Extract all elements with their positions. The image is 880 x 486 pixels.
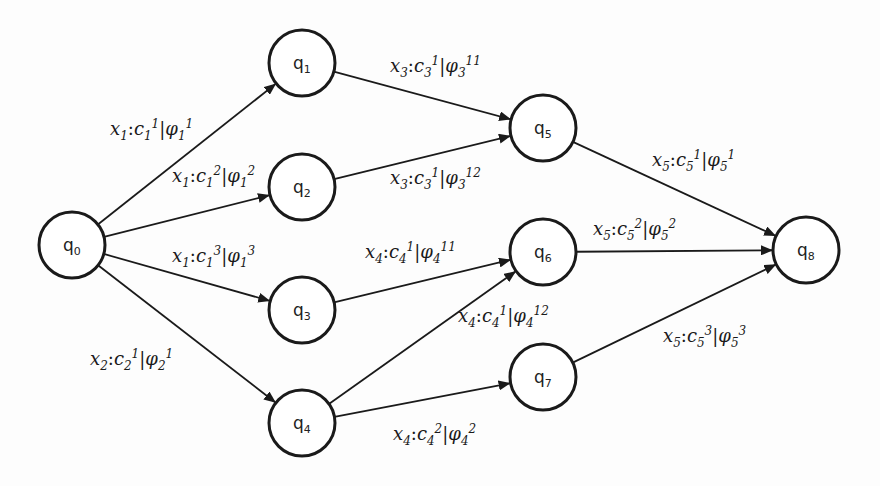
edge-label-q6-q8: x5:c52|φ52 <box>593 217 676 243</box>
state-graph: q0q1q2q3q4q5q6q7q8 x1:c11|φ11x1:c12|φ12x… <box>0 0 880 486</box>
edge-label-q4-q7: x4:c42|φ42 <box>393 422 476 448</box>
edge-q0-q4 <box>98 265 275 402</box>
edge-label-q0-q4: x2:c21|φ21 <box>90 347 173 373</box>
node-q1[interactable]: q1 <box>269 30 335 96</box>
diagram-canvas: q0q1q2q3q4q5q6q7q8 x1:c11|φ11x1:c12|φ12x… <box>0 0 880 486</box>
edge-label-q3-q6: x4:c41|φ411 <box>365 240 456 266</box>
node-q4[interactable]: q4 <box>269 390 335 456</box>
node-layer: q0q1q2q3q4q5q6q7q8 <box>39 30 839 456</box>
node-q0[interactable]: q0 <box>39 212 105 278</box>
edge-q1-q5 <box>334 72 510 120</box>
edge-label-q7-q8: x5:c53|φ53 <box>663 324 747 350</box>
edge-q6-q8 <box>576 250 772 251</box>
edge-label-q0-q3: x1:c13|φ13 <box>172 244 256 270</box>
edge-label-q0-q1: x1:c11|φ11 <box>110 117 193 143</box>
node-q8[interactable]: q8 <box>773 217 839 283</box>
node-q6[interactable]: q6 <box>510 219 576 285</box>
edge-label-q5-q8: x5:c51|φ51 <box>652 148 735 174</box>
edge-q4-q7 <box>334 383 509 416</box>
edge-q0-q2 <box>104 195 269 237</box>
edge-label-q0-q2: x1:c12|φ12 <box>172 164 255 190</box>
edge-q0-q1 <box>98 84 275 224</box>
node-q7[interactable]: q7 <box>510 344 576 410</box>
edge-q4-q6 <box>329 272 515 404</box>
edge-q3-q6 <box>334 260 510 302</box>
node-q5[interactable]: q5 <box>510 95 576 161</box>
edge-label-q2-q5: x3:c31|φ312 <box>390 166 481 192</box>
edge-label-q4-q6: x4:c41|φ412 <box>458 304 549 330</box>
edge-label-q1-q5: x3:c31|φ311 <box>390 54 481 80</box>
node-q3[interactable]: q3 <box>269 277 335 343</box>
node-q2[interactable]: q2 <box>269 154 335 220</box>
